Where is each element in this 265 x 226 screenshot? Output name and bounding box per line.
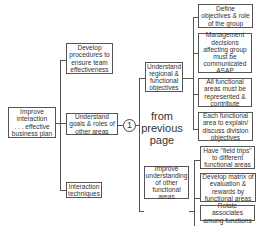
node-understand-regional: Understand regional & functional objecti… [145, 62, 183, 92]
page-connector-circle: 1 [123, 119, 136, 132]
node-all-functional-areas: All functional areas must be represented… [198, 78, 252, 107]
connector-line [139, 78, 140, 211]
node-develop-procedures: Develop procedures to ensure team effect… [66, 43, 113, 74]
node-improve-understanding: Improve understanding of other functiona… [144, 166, 189, 199]
node-each-functional-area: Each functional area to explain/ discuss… [198, 112, 253, 141]
node-define-objectives: Define objectives & role of the group [198, 4, 253, 28]
node-understand-goals: Understand goals & roles of other areas [66, 113, 118, 135]
connector-line [139, 211, 144, 212]
root-node: Improve interaction . . . effective busi… [8, 107, 56, 138]
node-interaction-techniques: Interaction techniques [66, 182, 102, 198]
node-management-decisions: Management decisions affecting group mus… [198, 33, 252, 73]
connector-line [193, 17, 194, 129]
node-rotate-associates: Rotate associates among functions [200, 205, 255, 221]
connector-note: from previous page [141, 110, 183, 146]
connector-line [60, 60, 61, 190]
node-field-trips: Have "field trips" to different function… [200, 146, 255, 169]
connector-line [194, 160, 195, 226]
node-develop-matrix: Develop matrix of evaluation & rewards b… [200, 173, 256, 202]
